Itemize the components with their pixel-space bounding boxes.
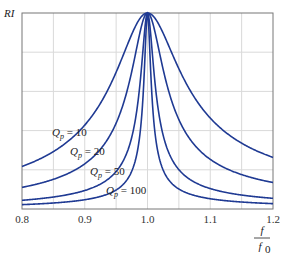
resonance-chart: 0.80.91.01.11.2 Qp = 10Qp = 20Qp = 50Qp … <box>0 0 287 259</box>
x-tick-labels: 0.80.91.01.11.2 <box>15 213 280 225</box>
x-tick-label: 0.9 <box>78 213 92 225</box>
y-axis-label: RI <box>3 7 16 19</box>
q-label: Qp = 50 <box>90 165 125 180</box>
svg-text:f: f <box>258 240 263 252</box>
grid-lines <box>22 13 273 209</box>
x-tick-label: 1.2 <box>266 213 280 225</box>
x-tick-label: 1.0 <box>141 213 155 225</box>
x-tick-label: 0.8 <box>15 213 29 225</box>
q-label: Qp = 10 <box>52 126 87 141</box>
svg-text:0: 0 <box>265 243 271 255</box>
q-label: Qp = 100 <box>106 184 147 199</box>
svg-text:f: f <box>260 224 265 236</box>
x-tick-label: 1.1 <box>203 213 217 225</box>
q-label: Qp = 20 <box>70 145 105 160</box>
x-axis-label: f f 0 <box>254 224 271 255</box>
